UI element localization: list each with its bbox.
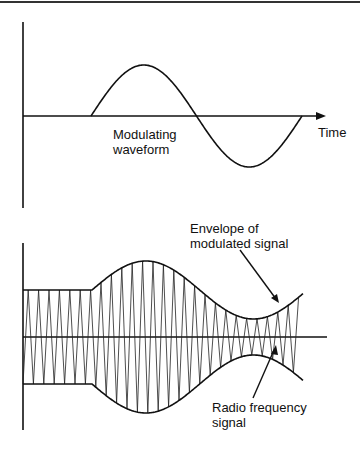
modulating-waveform-label-1: Modulating xyxy=(113,127,177,142)
modulating-waveform-label-2: waveform xyxy=(113,142,169,157)
rf-pointer-line xyxy=(253,350,274,398)
envelope-arrow-icon xyxy=(271,294,279,303)
envelope-label-1: Envelope of xyxy=(190,221,259,236)
time-axis-label: Time xyxy=(318,125,346,140)
rf-label-2: signal xyxy=(212,415,246,430)
rf-arrow-icon xyxy=(271,345,278,355)
time-axis-arrow-icon xyxy=(316,112,326,120)
amplitude-modulation-figure: Modulating waveform Time Envelope of mod… xyxy=(0,0,360,453)
figure-svg xyxy=(0,0,360,453)
envelope-pointer-line xyxy=(240,250,276,299)
rf-label-1: Radio frequency xyxy=(212,400,307,415)
modulating-waveform-diagram xyxy=(23,22,326,208)
envelope-label-2: modulated signal xyxy=(190,236,288,251)
